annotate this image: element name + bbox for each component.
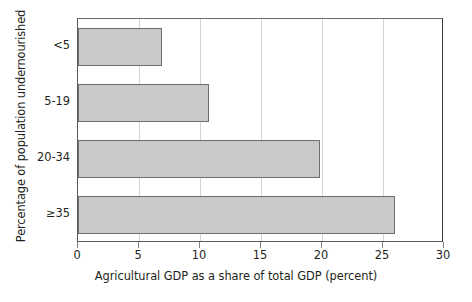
x-tick-label: 30 xyxy=(423,248,463,262)
y-tick-label: 5-19 xyxy=(0,94,70,108)
bar xyxy=(78,140,320,178)
bar xyxy=(78,84,209,122)
bar xyxy=(78,28,162,66)
y-tick-label: <5 xyxy=(0,38,70,52)
y-tick-label: 20-34 xyxy=(0,150,70,164)
x-tick-label: 0 xyxy=(57,248,97,262)
x-tick-label: 5 xyxy=(118,248,158,262)
x-tick-label: 15 xyxy=(240,248,280,262)
x-tick-label: 25 xyxy=(362,248,402,262)
plot-area xyxy=(77,18,443,242)
y-tick-label: ≥35 xyxy=(0,206,70,220)
x-tick-label: 10 xyxy=(179,248,219,262)
bar-chart-figure: Percentage of population undernourished … xyxy=(0,0,472,302)
bar xyxy=(78,196,395,234)
x-tick-label: 20 xyxy=(301,248,341,262)
x-axis-title: Agricultural GDP as a share of total GDP… xyxy=(0,269,472,283)
